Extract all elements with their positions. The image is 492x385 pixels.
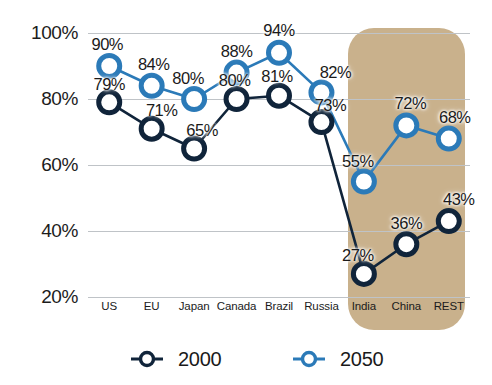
data-point-marker[interactable]: [438, 128, 459, 149]
data-point-marker[interactable]: [99, 56, 120, 77]
data-point-label: 80%: [172, 69, 204, 88]
data-point-marker[interactable]: [141, 118, 162, 139]
chart-container: 100%80%60%40%20% USEUJapanCanadaBrazilRu…: [0, 0, 492, 385]
data-point-label: 43%: [443, 190, 475, 209]
data-point-marker[interactable]: [269, 85, 290, 106]
legend-marker-2000-icon: [130, 348, 164, 370]
data-point-marker[interactable]: [353, 263, 374, 284]
data-point-marker[interactable]: [311, 112, 332, 133]
data-point-label: 79%: [93, 75, 125, 94]
legend-marker-2050-icon: [292, 348, 326, 370]
data-point-label: 71%: [146, 100, 178, 119]
data-point-marker[interactable]: [184, 138, 205, 159]
data-point-marker[interactable]: [396, 115, 417, 136]
data-point-label: 73%: [315, 96, 347, 115]
data-point-marker[interactable]: [269, 42, 290, 63]
data-point-label: 65%: [186, 120, 218, 139]
data-point-label: 82%: [320, 63, 352, 82]
data-point-label: 90%: [91, 35, 123, 54]
chart-legend: 2000 2050: [0, 344, 492, 380]
data-point-marker[interactable]: [353, 171, 374, 192]
legend-label-2000: 2000: [178, 348, 221, 371]
data-point-label: 27%: [342, 245, 374, 264]
data-point-label: 36%: [391, 214, 423, 233]
data-point-label: 81%: [261, 66, 293, 85]
data-point-marker[interactable]: [396, 234, 417, 255]
legend-item-2000[interactable]: 2000: [130, 344, 221, 374]
data-point-label: 68%: [439, 107, 471, 126]
legend-label-2050: 2050: [340, 348, 383, 371]
data-point-marker[interactable]: [99, 92, 120, 113]
legend-item-2050[interactable]: 2050: [292, 344, 383, 374]
data-point-marker[interactable]: [184, 89, 205, 110]
data-point-label: 80%: [219, 71, 251, 90]
data-point-label: 84%: [138, 54, 170, 73]
data-point-marker[interactable]: [226, 89, 247, 110]
data-point-label: 88%: [221, 41, 253, 60]
data-point-marker[interactable]: [141, 75, 162, 96]
data-point-label: 72%: [395, 94, 427, 113]
data-point-marker[interactable]: [438, 211, 459, 232]
data-point-label: 94%: [263, 20, 295, 39]
data-point-label: 55%: [342, 151, 374, 170]
